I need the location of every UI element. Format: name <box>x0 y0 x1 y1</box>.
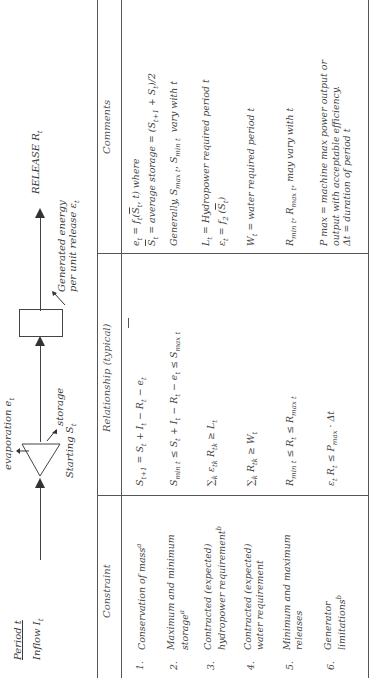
table-bottom-border <box>368 0 369 678</box>
relationship-formula: εt Rt ≤ Pmax · Δt <box>325 411 336 486</box>
stray-mark <box>128 318 129 328</box>
comment-line: εt = f2 (St) <box>216 79 232 246</box>
relationship-formula: Rmin t ≤ Rt ≤ Rmax t <box>284 396 295 486</box>
constraint-cell: Conservation of massa <box>134 544 148 650</box>
starting-text: Starting S <box>64 426 75 478</box>
comments-cell: Generally, Smax t, Smin t vary with t <box>168 81 184 246</box>
comments-cell: et = ft(St, t) where St = average storag… <box>130 73 163 246</box>
comment-line: et = ft(St, t) where <box>130 73 146 246</box>
constraint-text-2: storage <box>179 614 190 650</box>
footnote-marker: a <box>178 610 186 614</box>
relationship-cell: Smin t ≤ St + It − Rt − et ≤ Smax t <box>168 332 184 486</box>
constraint-text: Maximum and minimum <box>165 534 177 650</box>
header-comments: Comments <box>101 100 112 154</box>
relationship-cell: εt Rt ≤ Pmax · Δt <box>325 411 341 486</box>
column-separator-2 <box>97 253 369 254</box>
constraint-text-2: releases <box>293 534 305 650</box>
constraint-text: Contracted (expected) <box>242 543 254 650</box>
comments-cell: Rmin t, Rmax t, may vary with t <box>284 108 300 246</box>
comments-cell: P max = machine max power output or outp… <box>318 60 353 246</box>
relationship-cell: ∑k εtk Rtk ≥ Lt <box>205 420 221 486</box>
constraint-text-2: water requirement <box>254 543 266 650</box>
comment-line: output with acceptable efficiency. <box>330 60 342 246</box>
header-relationship: Relationship (typical) <box>101 324 112 432</box>
constraint-cell: Contracted (expected) hydropower require… <box>202 526 227 650</box>
comments-cell: Wt = water required period t <box>245 108 261 246</box>
row-number: 1. <box>134 661 145 670</box>
constraint-cell: Minimum and maximum releases <box>281 534 304 650</box>
evaporation-text: evaporation e <box>2 401 13 470</box>
row-number: 5. <box>284 661 295 670</box>
relationship-formula: ∑k Rtk ≥ Wt <box>245 432 256 486</box>
comment-line: Generally, Smax t, Smin t vary with t <box>168 81 184 246</box>
release-text: RELEASE R <box>30 133 41 194</box>
row-number: 3. <box>205 661 216 670</box>
release-line-1 <box>40 338 41 442</box>
column-separator-1 <box>97 495 369 496</box>
starting-subscript: t <box>70 423 78 426</box>
energy-pointer-icon <box>52 290 66 306</box>
evaporation-arrow-icon <box>16 446 30 456</box>
energy-label-line2: per unit release εt <box>67 200 83 292</box>
footnote-marker: b <box>335 595 343 599</box>
relationship-formula: St+1 = St + It − Rt − et <box>134 377 145 486</box>
inflow-subscript: t <box>37 618 45 621</box>
constraint-text-2: hydropower requirement <box>216 531 227 650</box>
comment-line: Rmin t, Rmax t, may vary with t <box>284 108 300 246</box>
evaporation-subscript: t <box>8 398 16 401</box>
row-number: 2. <box>168 661 179 670</box>
relationship-formula: Smin t ≤ St + It − Rt − et ≤ Smax t <box>168 332 179 486</box>
starting-storage-label: Starting St <box>64 423 78 478</box>
release-label: RELEASE Rt <box>30 130 44 194</box>
comments-cell: Lt = Hydropower required period t εt = f… <box>200 79 233 246</box>
energy-subscript: t <box>73 200 81 203</box>
constraint-text-2: limitations <box>336 599 347 650</box>
comment-line: Δt = duration of period t <box>341 60 353 246</box>
comment-line: P max = machine max power output or <box>318 60 330 246</box>
period-label: Period t <box>12 620 23 660</box>
header-constraint: Constraint <box>101 564 112 618</box>
generator-box <box>19 309 63 337</box>
constraint-text: Minimum and maximum <box>281 534 293 650</box>
storage-pointer-icon <box>46 428 58 442</box>
relationship-cell: ∑k Rtk ≥ Wt <box>245 432 261 486</box>
release-line-2 <box>40 211 41 311</box>
constraint-text: Contracted (expected) <box>202 526 214 650</box>
evaporation-label: evaporation et <box>2 398 16 470</box>
table-header-separator <box>121 0 122 678</box>
storage-label: storage <box>54 388 65 426</box>
release-subscript: t <box>36 130 44 133</box>
footnote-marker: a <box>135 544 143 548</box>
release-arrow-icon <box>35 206 46 218</box>
relationship-cell: Rmin t ≤ Rt ≤ Rmax t <box>284 396 300 486</box>
constraint-cell: Generator limitationsb <box>322 595 347 650</box>
constraint-cell: Maximum and minimum storagea <box>165 534 190 650</box>
rotated-page: Period t Inflow It evaporation et storag… <box>0 0 375 678</box>
table-top-border <box>97 0 98 678</box>
energy-label-line1: Generated energy <box>56 200 67 292</box>
relationship-formula: ∑k εtk Rtk ≥ Lt <box>205 420 216 486</box>
relationship-cell: St+1 = St + It − Rt − et <box>134 377 150 486</box>
row-number: 4. <box>245 661 256 670</box>
inflow-label: Inflow It <box>31 618 45 660</box>
energy-label: Generated energy per unit release εt <box>56 200 83 292</box>
comment-line: Wt = water required period t <box>245 108 261 246</box>
row-number: 6. <box>325 661 336 670</box>
comment-line: Lt = Hydropower required period t <box>200 79 216 246</box>
footnote-marker: b <box>215 526 223 530</box>
constraint-text: Generator <box>322 595 334 650</box>
energy-text: per unit release ε <box>67 203 78 292</box>
inflow-line <box>40 480 41 560</box>
comment-line: St = average storage = (St+1 + St)/2 <box>146 73 162 246</box>
inflow-text: Inflow I <box>31 621 42 660</box>
constraint-text: Conservation of mass <box>136 548 147 650</box>
constraint-cell: Contracted (expected) water requirement <box>242 543 265 650</box>
